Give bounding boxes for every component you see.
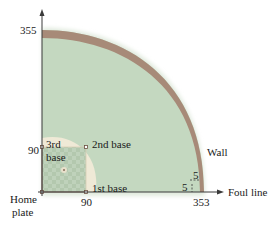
- second-base-label: 2nd base: [92, 138, 131, 150]
- third-base-distance-label: 90: [28, 144, 39, 156]
- wall-offset-top-label: 5: [193, 169, 199, 181]
- wall-offset-left-label: 5: [182, 181, 188, 193]
- home-plate-label-line1: Home: [10, 193, 37, 205]
- x-axis-arrow: [217, 190, 224, 195]
- wall-label: Wall: [207, 146, 228, 158]
- y-axis-355-label: 355: [20, 24, 37, 36]
- foul-line-label: Foul line: [228, 186, 267, 198]
- first-base-label: 1st base: [92, 182, 127, 194]
- third-base-label-line1: 3rd: [46, 138, 61, 150]
- home-plate-label-line2: plate: [12, 206, 33, 218]
- second-base-marker: [85, 146, 88, 149]
- x-axis-353-label: 353: [193, 196, 210, 208]
- y-axis-arrow: [40, 9, 45, 16]
- first-base-distance-label: 90: [81, 196, 92, 208]
- third-base-label-line2: base: [46, 151, 66, 163]
